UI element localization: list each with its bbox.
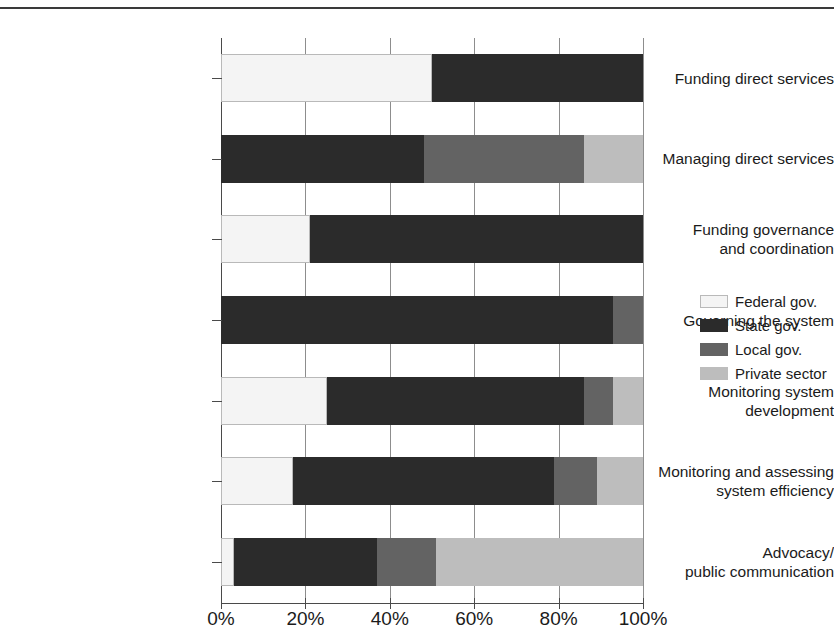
x-axis-tick-label: 0% xyxy=(176,608,266,630)
bar-segment xyxy=(234,538,377,586)
bar-row xyxy=(221,377,643,425)
y-axis-category-label: Funding direct services xyxy=(629,69,834,88)
y-axis-tick xyxy=(212,320,222,321)
legend-label: Federal gov. xyxy=(735,293,817,310)
bar-segment xyxy=(221,457,293,505)
bar-row xyxy=(221,215,643,263)
legend-swatch xyxy=(700,367,728,380)
x-axis-tick-label: 100% xyxy=(598,608,688,630)
bar-segment xyxy=(221,377,327,425)
bar-row xyxy=(221,54,643,102)
legend: Federal gov.State gov.Local gov.Private … xyxy=(700,292,830,388)
bar-segment xyxy=(221,538,234,586)
y-axis-category-label-line: system efficiency xyxy=(629,481,834,500)
y-axis-tick xyxy=(212,239,222,240)
legend-swatch xyxy=(700,295,728,308)
plot-area xyxy=(221,38,643,602)
bar-row xyxy=(221,135,643,183)
y-axis-category-label: Advocacy/public communication xyxy=(629,543,834,581)
title-divider-rule xyxy=(0,7,834,9)
bar-segment xyxy=(293,457,555,505)
y-axis-category-label: Managing direct services xyxy=(629,149,834,168)
y-axis-tick xyxy=(212,159,222,160)
y-axis-category-label-line: development xyxy=(629,401,834,420)
legend-swatch xyxy=(700,319,728,332)
legend-item: State gov. xyxy=(700,316,830,335)
legend-item: Local gov. xyxy=(700,340,830,359)
y-axis-category-label-line: Advocacy/ xyxy=(629,543,834,562)
bar-segment xyxy=(327,377,584,425)
y-axis-tick xyxy=(212,481,222,482)
x-axis-tick-label: 40% xyxy=(345,608,435,630)
legend-label: Private sector xyxy=(735,365,827,382)
y-axis-tick xyxy=(212,78,222,79)
bar-segment xyxy=(377,538,436,586)
chart-figure: 0%20%40%60%80%100% Funding direct servic… xyxy=(0,0,834,632)
x-axis-tick-label: 80% xyxy=(514,608,604,630)
bar-segment xyxy=(436,538,643,586)
legend-swatch xyxy=(700,343,728,356)
legend-item: Private sector xyxy=(700,364,830,383)
bar-segment xyxy=(424,135,584,183)
y-axis-category-label-line: Funding governance xyxy=(629,220,834,239)
y-axis-category-label-line: Monitoring and assessing xyxy=(629,462,834,481)
y-axis-tick xyxy=(212,401,222,402)
y-axis-category-label-line: public communication xyxy=(629,562,834,581)
bar-row xyxy=(221,538,643,586)
bar-segment xyxy=(310,215,643,263)
bar-row xyxy=(221,296,643,344)
cropped-title-text xyxy=(14,0,714,6)
bar-segment xyxy=(221,135,424,183)
bar-segment xyxy=(584,377,614,425)
x-axis-tick-label: 20% xyxy=(260,608,350,630)
y-axis-category-label-line: Funding direct services xyxy=(629,69,834,88)
bar-row xyxy=(221,457,643,505)
y-axis-category-label: Monitoring and assessingsystem efficienc… xyxy=(629,462,834,500)
legend-label: State gov. xyxy=(735,317,801,334)
y-axis-category-label-line: and coordination xyxy=(629,239,834,258)
legend-item: Federal gov. xyxy=(700,292,830,311)
bar-segment xyxy=(221,215,310,263)
x-axis-tick-label: 60% xyxy=(429,608,519,630)
bar-segment xyxy=(221,296,613,344)
y-axis-category-label: Funding governanceand coordination xyxy=(629,220,834,258)
bar-segment xyxy=(221,54,432,102)
bar-segment xyxy=(554,457,596,505)
y-axis-category-label-line: Managing direct services xyxy=(629,149,834,168)
x-axis-line xyxy=(221,603,644,604)
y-axis-tick xyxy=(212,562,222,563)
legend-label: Local gov. xyxy=(735,341,802,358)
bar-segment xyxy=(432,54,643,102)
